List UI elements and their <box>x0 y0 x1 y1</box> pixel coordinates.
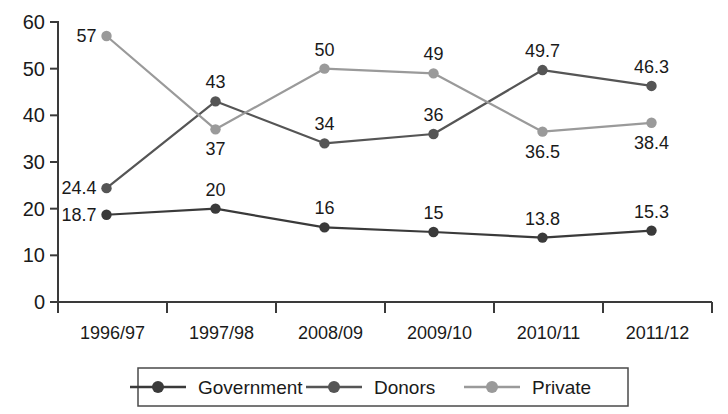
line-chart: 0102030405060 1996/971997/982008/092009/… <box>0 0 728 414</box>
y-tick-label: 0 <box>34 291 45 313</box>
data-point <box>646 81 656 91</box>
data-point <box>210 96 220 106</box>
data-point-label: 43 <box>205 72 225 92</box>
series-line-government <box>107 209 652 238</box>
legend-marker-donors <box>328 381 340 393</box>
data-point-label: 50 <box>314 40 334 60</box>
data-point-label: 34 <box>314 114 334 134</box>
y-tick-label: 60 <box>23 11 45 33</box>
data-point-label: 20 <box>205 180 225 200</box>
y-tick-label: 20 <box>23 198 45 220</box>
legend-label-government: Government <box>198 377 303 398</box>
x-axis: 1996/971997/982008/092009/102010/112011/… <box>58 302 712 343</box>
data-point <box>646 118 656 128</box>
chart-canvas: 0102030405060 1996/971997/982008/092009/… <box>0 0 728 414</box>
x-tick-label: 1996/97 <box>80 323 145 343</box>
y-tick-label: 50 <box>23 58 45 80</box>
x-tick-label: 2008/09 <box>298 323 363 343</box>
legend-marker-private <box>486 381 498 393</box>
data-point-label: 36.5 <box>525 142 560 162</box>
data-point-label: 49 <box>423 44 443 64</box>
data-point-label: 36 <box>423 105 443 125</box>
legend-label-donors: Donors <box>374 377 435 398</box>
series-line-private <box>107 36 652 132</box>
data-point <box>428 227 438 237</box>
y-tick-label: 10 <box>23 244 45 266</box>
data-point <box>319 63 329 73</box>
data-point <box>537 65 547 75</box>
data-point-label: 24.4 <box>61 178 96 198</box>
data-point-label: 37 <box>205 139 225 159</box>
data-point <box>210 203 220 213</box>
data-point <box>101 183 111 193</box>
data-point-label: 15 <box>423 203 443 223</box>
data-point-label: 46.3 <box>634 57 669 77</box>
data-point <box>101 31 111 41</box>
x-tick-label: 2011/12 <box>626 323 690 343</box>
x-tick-label: 2009/10 <box>407 323 472 343</box>
data-point-label: 49.7 <box>525 41 560 61</box>
data-point <box>646 225 656 235</box>
data-point <box>428 68 438 78</box>
y-tick-label: 40 <box>23 104 45 126</box>
data-series-group <box>101 31 656 243</box>
y-tick-label: 30 <box>23 151 45 173</box>
data-point <box>319 222 329 232</box>
data-point <box>428 129 438 139</box>
data-point-label: 18.7 <box>61 205 96 225</box>
data-point-label: 38.4 <box>634 133 669 153</box>
data-point-label: 16 <box>314 198 334 218</box>
legend-label-private: Private <box>532 377 591 398</box>
data-point <box>101 210 111 220</box>
y-axis: 0102030405060 <box>23 11 58 313</box>
data-point-label: 13.8 <box>525 209 560 229</box>
data-point-label: 57 <box>76 26 96 46</box>
x-tick-label: 2010/11 <box>517 323 581 343</box>
x-tick-label: 1997/98 <box>189 323 254 343</box>
data-point-labels: 18.720161513.815.324.443343649.746.35737… <box>61 26 669 229</box>
chart-legend: GovernmentDonorsPrivate <box>130 368 628 406</box>
data-point <box>319 138 329 148</box>
legend-marker-government <box>152 381 164 393</box>
data-point-label: 15.3 <box>634 202 669 222</box>
data-point <box>537 232 547 242</box>
data-point <box>210 124 220 134</box>
data-point <box>537 126 547 136</box>
